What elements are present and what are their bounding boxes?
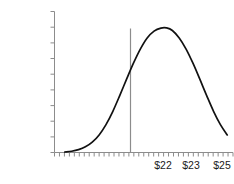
density-chart: Density 0.9 0.8 0.7 0.6 0.5 0.4 0.3 0.2 … [0, 0, 234, 184]
chart-background [0, 0, 234, 184]
plot-area [0, 0, 234, 184]
x-tick-label: $22 [148, 160, 178, 171]
x-tick-label: $23 [176, 160, 206, 171]
x-tick-label: $25 [207, 160, 234, 171]
